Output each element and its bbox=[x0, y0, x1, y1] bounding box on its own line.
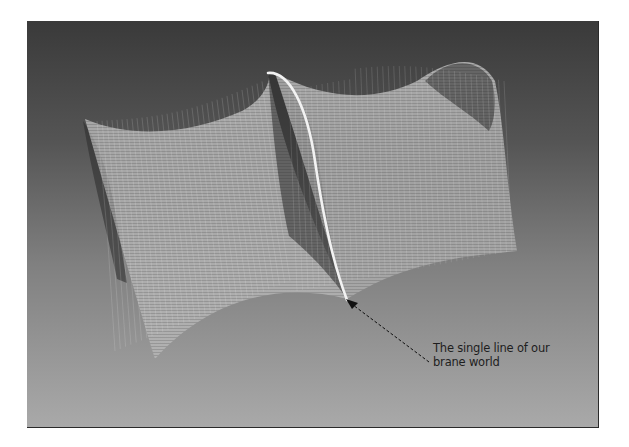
caption-line-1: The single line of our bbox=[433, 341, 550, 355]
annotation-arrow-line bbox=[353, 305, 429, 362]
annotation-caption: The single line of our brane world bbox=[433, 341, 550, 369]
figure-panel: The single line of our brane world bbox=[27, 21, 599, 428]
caption-line-2: brane world bbox=[433, 355, 550, 369]
